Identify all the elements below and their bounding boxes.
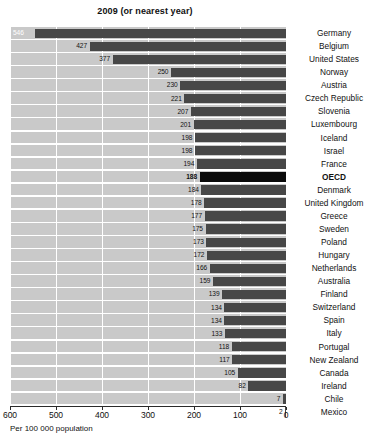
bar-row: 250 xyxy=(10,66,286,79)
bar-value-label: 546 xyxy=(13,28,24,37)
bar-germany xyxy=(35,29,286,38)
bar-row: 118 xyxy=(10,341,286,354)
bar-luxembourg xyxy=(194,120,286,129)
bar-value-label: 178 xyxy=(191,198,202,207)
bar-value-label: 134 xyxy=(211,303,222,312)
bar-row: 178 xyxy=(10,197,286,210)
bar-value-label: 118 xyxy=(219,342,229,351)
bar-slovenia xyxy=(191,107,286,116)
bar-chart: 2009 (or nearest year) 54642737725023022… xyxy=(0,0,381,445)
category-label-poland: Poland xyxy=(290,236,378,249)
category-label-slovenia: Slovenia xyxy=(290,105,378,118)
category-label-mexico: Mexico xyxy=(290,406,378,419)
bar-value-label: 198 xyxy=(182,133,193,142)
bar-greece xyxy=(205,211,286,220)
tick-label-500: 500 xyxy=(49,410,63,420)
category-label-israel: Israel xyxy=(290,145,378,158)
category-label-ireland: Ireland xyxy=(290,380,378,393)
bar-italy xyxy=(225,329,286,338)
tick-label-400: 400 xyxy=(95,410,109,420)
bar-value-label: 177 xyxy=(191,211,202,220)
bar-row: 175 xyxy=(10,223,286,236)
chart-title: 2009 (or nearest year) xyxy=(0,6,290,16)
bar-value-label: 198 xyxy=(182,146,193,155)
bar-value-label: 427 xyxy=(76,41,87,50)
category-label-switzerland: Switzerland xyxy=(290,301,378,314)
bar-row: 198 xyxy=(10,132,286,145)
bar-row: 177 xyxy=(10,210,286,223)
category-label-norway: Norway xyxy=(290,66,378,79)
bar-value-label: 377 xyxy=(99,54,110,63)
bar-row: 201 xyxy=(10,118,286,131)
category-label-new-zealand: New Zealand xyxy=(290,354,378,367)
bar-row: 230 xyxy=(10,79,286,92)
bar-spain xyxy=(224,316,286,325)
category-label-finland: Finland xyxy=(290,288,378,301)
bar-row: 427 xyxy=(10,40,286,53)
category-label-greece: Greece xyxy=(290,210,378,223)
bar-hungary xyxy=(207,251,286,260)
bar-new-zealand xyxy=(232,355,286,364)
category-label-italy: Italy xyxy=(290,327,378,340)
bar-rows: 5464273772502302212072011981981941881841… xyxy=(10,27,286,406)
bar-value-label: 173 xyxy=(193,237,204,246)
bar-row: 377 xyxy=(10,53,286,66)
bar-value-label: 188 xyxy=(186,172,197,181)
tick-label-0: 0 xyxy=(284,410,289,420)
bar-netherlands xyxy=(210,264,286,273)
category-label-belgium: Belgium xyxy=(290,40,378,53)
bar-row: 194 xyxy=(10,158,286,171)
bar-united-kingdom xyxy=(204,198,286,207)
category-label-luxembourg: Luxembourg xyxy=(290,118,378,131)
bar-canada xyxy=(238,368,286,377)
category-label-hungary: Hungary xyxy=(290,249,378,262)
bar-value-label: 172 xyxy=(194,250,205,259)
x-axis-label: Per 100 000 population xyxy=(10,424,93,433)
bar-value-label: 133 xyxy=(211,329,222,338)
bar-value-label: 2 xyxy=(279,407,283,416)
bar-value-label: 134 xyxy=(211,316,222,325)
bar-row: 198 xyxy=(10,145,286,158)
category-label-oecd: OECD xyxy=(290,171,378,184)
bar-row: 184 xyxy=(10,184,286,197)
category-label-czech-republic: Czech Republic xyxy=(290,92,378,105)
category-label-chile: Chile xyxy=(290,393,378,406)
category-label-canada: Canada xyxy=(290,367,378,380)
bar-israel xyxy=(195,146,286,155)
bar-united-states xyxy=(113,55,286,64)
bar-iceland xyxy=(195,133,286,142)
bar-row: 134 xyxy=(10,314,286,327)
bar-switzerland xyxy=(224,303,286,312)
bar-row: 207 xyxy=(10,105,286,118)
bar-row: 117 xyxy=(10,354,286,367)
category-label-australia: Australia xyxy=(290,275,378,288)
bar-row: 133 xyxy=(10,327,286,340)
category-label-germany: Germany xyxy=(290,27,378,40)
bar-value-label: 166 xyxy=(196,263,207,272)
category-label-iceland: Iceland xyxy=(290,132,378,145)
bar-value-label: 175 xyxy=(192,224,203,233)
bar-value-label: 221 xyxy=(171,94,182,103)
bar-row: 166 xyxy=(10,262,286,275)
plot-area: 5464273772502302212072011981981941881841… xyxy=(10,27,286,406)
bar-row: 172 xyxy=(10,249,286,262)
category-labels: GermanyBelgiumUnited StatesNorwayAustria… xyxy=(290,27,378,406)
category-label-portugal: Portugal xyxy=(290,341,378,354)
category-label-france: France xyxy=(290,158,378,171)
category-label-spain: Spain xyxy=(290,314,378,327)
category-label-sweden: Sweden xyxy=(290,223,378,236)
tick-label-100: 100 xyxy=(233,410,247,420)
bar-value-label: 159 xyxy=(200,276,211,285)
bar-value-label: 250 xyxy=(158,67,169,76)
bar-row: 82 xyxy=(10,380,286,393)
bar-sweden xyxy=(206,224,287,233)
bar-row: 546 xyxy=(10,27,286,40)
bar-row: 7 xyxy=(10,393,286,406)
bar-row: 134 xyxy=(10,301,286,314)
bar-value-label: 207 xyxy=(177,107,188,116)
bar-oecd xyxy=(200,172,286,181)
category-label-united-kingdom: United Kingdom xyxy=(290,197,378,210)
category-label-netherlands: Netherlands xyxy=(290,262,378,275)
bar-poland xyxy=(206,238,286,247)
tick-label-600: 600 xyxy=(3,410,17,420)
